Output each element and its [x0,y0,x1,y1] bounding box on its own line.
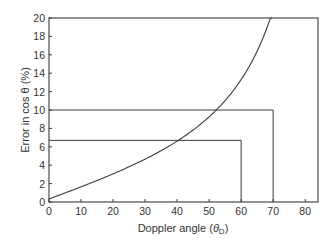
x-tick-label: 80 [299,205,311,217]
y-tick-label: 14 [33,67,45,79]
y-axis-label: Error in cos θ (%) [19,67,31,153]
plot-area [49,18,318,202]
y-tick-label: 2 [39,178,45,190]
y-tick-label: 0 [39,196,45,208]
x-tick-label: 60 [235,205,247,217]
y-tick-label: 8 [39,122,45,134]
x-tick-label: 50 [203,205,215,217]
y-tick-label: 18 [33,30,45,42]
y-tick-label: 10 [33,104,45,116]
guide-line-60 [49,140,241,202]
y-tick-label: 12 [33,86,45,98]
error-curve [49,18,272,199]
x-axis-label: Doppler angle (θD) [138,222,229,236]
x-tick-label: 70 [267,205,279,217]
chart: 01020304050607080 02468101214161820 Dopp… [0,0,334,242]
x-tick-label: 40 [171,205,183,217]
guide-line-70 [49,110,273,202]
x-tick-label: 20 [107,205,119,217]
x-tick-label: 0 [46,205,52,217]
y-tick-label: 20 [33,12,45,24]
x-tick-label: 30 [139,205,151,217]
y-tick-label: 6 [39,141,45,153]
y-tick-label: 4 [39,159,45,171]
y-tick-label: 16 [33,49,45,61]
x-tick-label: 10 [75,205,87,217]
